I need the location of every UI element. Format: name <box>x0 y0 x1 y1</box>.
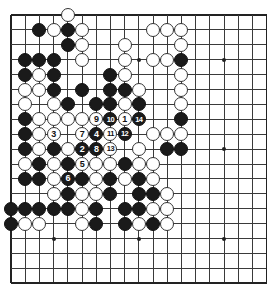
white-stone <box>75 112 89 126</box>
black-stone <box>174 112 188 126</box>
move-number: 11 <box>107 130 114 138</box>
black-stone <box>32 172 46 186</box>
white-stone <box>160 53 174 67</box>
white-stone <box>18 83 32 97</box>
black-stone <box>75 172 89 186</box>
black-stone <box>61 202 75 216</box>
black-stone <box>18 202 32 216</box>
grid-line-horizontal <box>11 268 267 269</box>
white-stone <box>160 127 174 141</box>
black-stone <box>103 172 117 186</box>
go-board: 9101143741112281356 <box>0 0 275 290</box>
black-stone <box>118 217 132 231</box>
numbered-black-stone: 4 <box>89 127 103 141</box>
white-stone <box>174 97 188 111</box>
grid-line-vertical <box>238 15 239 283</box>
grid-line-vertical <box>252 15 253 283</box>
black-stone <box>132 172 146 186</box>
black-stone <box>103 68 117 82</box>
white-stone <box>132 83 146 97</box>
black-stone <box>61 97 75 111</box>
numbered-white-stone: 13 <box>103 142 117 156</box>
black-stone <box>47 83 61 97</box>
black-stone <box>18 127 32 141</box>
white-stone <box>160 202 174 216</box>
black-stone <box>47 68 61 82</box>
white-stone <box>61 8 75 22</box>
move-number: 6 <box>66 174 71 183</box>
star-point <box>137 237 141 241</box>
white-stone <box>174 68 188 82</box>
numbered-white-stone: 9 <box>89 112 103 126</box>
star-point <box>137 58 141 62</box>
numbered-black-stone: 2 <box>75 142 89 156</box>
numbered-white-stone: 11 <box>103 127 117 141</box>
white-stone <box>47 187 61 201</box>
star-point <box>222 237 226 241</box>
move-number: 13 <box>107 145 114 153</box>
black-stone <box>132 202 146 216</box>
white-stone <box>47 97 61 111</box>
grid-line-vertical <box>266 15 268 283</box>
numbered-white-stone: 3 <box>47 127 61 141</box>
move-number: 7 <box>80 130 85 139</box>
white-stone <box>47 23 61 37</box>
black-stone <box>61 38 75 52</box>
black-stone <box>18 142 32 156</box>
white-stone <box>174 83 188 97</box>
black-stone <box>47 53 61 67</box>
move-number: 12 <box>121 130 128 138</box>
numbered-white-stone: 1 <box>118 112 132 126</box>
black-stone <box>75 83 89 97</box>
white-stone <box>132 142 146 156</box>
black-stone <box>103 83 117 97</box>
grid-line-vertical <box>209 15 210 283</box>
black-stone <box>118 202 132 216</box>
star-point <box>222 147 226 151</box>
white-stone <box>75 23 89 37</box>
numbered-black-stone: 10 <box>103 112 117 126</box>
white-stone <box>47 172 61 186</box>
white-stone <box>160 23 174 37</box>
grid-line-horizontal <box>11 282 267 284</box>
white-stone <box>174 23 188 37</box>
black-stone <box>132 187 146 201</box>
white-stone <box>174 127 188 141</box>
move-number: 9 <box>94 115 99 124</box>
black-stone <box>4 217 18 231</box>
white-stone <box>146 23 160 37</box>
white-stone <box>75 38 89 52</box>
black-stone <box>160 142 174 156</box>
black-stone <box>174 53 188 67</box>
black-stone <box>32 157 46 171</box>
white-stone <box>174 38 188 52</box>
white-stone <box>89 157 103 171</box>
black-stone <box>61 157 75 171</box>
move-number: 10 <box>107 116 114 124</box>
move-number: 1 <box>122 115 127 124</box>
white-stone <box>132 217 146 231</box>
move-number: 5 <box>80 160 85 169</box>
white-stone <box>75 53 89 67</box>
white-stone <box>47 157 61 171</box>
numbered-black-stone: 12 <box>118 127 132 141</box>
white-stone <box>89 187 103 201</box>
move-number: 14 <box>135 116 142 124</box>
white-stone <box>118 68 132 82</box>
white-stone <box>32 142 46 156</box>
white-stone <box>18 157 32 171</box>
white-stone <box>160 217 174 231</box>
black-stone <box>18 172 32 186</box>
black-stone <box>89 97 103 111</box>
black-stone <box>118 157 132 171</box>
move-number: 3 <box>51 130 56 139</box>
white-stone <box>160 187 174 201</box>
black-stone <box>61 23 75 37</box>
black-stone <box>146 187 160 201</box>
black-stone <box>118 83 132 97</box>
white-stone <box>32 83 46 97</box>
white-stone <box>32 217 46 231</box>
white-stone <box>32 68 46 82</box>
white-stone <box>118 53 132 67</box>
black-stone <box>47 142 61 156</box>
